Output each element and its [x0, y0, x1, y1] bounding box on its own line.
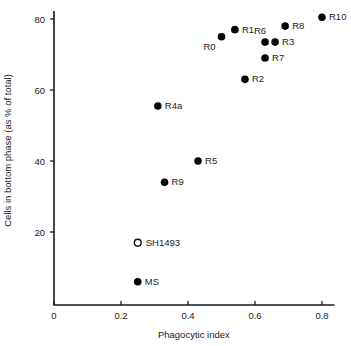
data-point-r3	[271, 38, 279, 46]
data-point-r5	[194, 157, 202, 165]
x-tick-label: 0.4	[181, 310, 194, 321]
data-point-r9	[161, 179, 169, 187]
y-axis-ticks: 20406080	[34, 14, 54, 238]
data-point-label-r6: R6	[254, 25, 266, 36]
y-tick-label: 60	[34, 85, 45, 96]
plot-canvas: 00.20.40.60.8 20406080 R0R1R6R3R7R8R10R2…	[0, 0, 351, 346]
data-point-label-r3: R3	[282, 36, 294, 47]
data-point-label-r5: R5	[205, 155, 217, 166]
data-point-r7	[261, 54, 269, 62]
data-point-label-r7: R7	[272, 52, 284, 63]
data-point-r4a	[154, 102, 162, 110]
data-point-r6	[261, 38, 269, 46]
x-tick-label: 0.8	[315, 310, 328, 321]
axes-group	[54, 12, 334, 305]
x-tick-label: 0	[51, 310, 56, 321]
data-point-label-r8: R8	[292, 20, 304, 31]
data-point-label-r10: R10	[329, 11, 346, 22]
data-point-label-r0: R0	[203, 41, 215, 52]
y-tick-label: 80	[34, 14, 45, 25]
x-axis-ticks: 00.20.40.60.8	[51, 301, 328, 321]
data-point-label-ms: MS	[145, 276, 159, 287]
data-point-label-r9: R9	[172, 176, 184, 187]
scatter-plot-figure: 00.20.40.60.8 20406080 R0R1R6R3R7R8R10R2…	[0, 0, 351, 346]
x-tick-label: 0.6	[248, 310, 261, 321]
data-point-label-r2: R2	[252, 73, 264, 84]
x-axis-title: Phagocytic index	[158, 329, 230, 340]
data-point-sh1493	[134, 239, 141, 246]
y-tick-label: 20	[34, 227, 45, 238]
data-point-label-r4a: R4a	[165, 100, 183, 111]
y-tick-label: 40	[34, 156, 45, 167]
x-tick-label: 0.2	[114, 310, 127, 321]
y-axis-title: Cells in bottom phase (as % of total)	[2, 74, 13, 227]
data-point-series: R0R1R6R3R7R8R10R2R4aR5R9SH1493MS	[134, 11, 346, 286]
axis-lines	[54, 12, 334, 305]
data-point-r10	[318, 13, 326, 21]
data-point-r1	[231, 26, 239, 34]
data-point-r2	[241, 76, 249, 84]
data-point-r0	[218, 33, 226, 41]
data-point-label-r1: R1	[242, 24, 254, 35]
data-point-label-sh1493: SH1493	[146, 237, 180, 248]
data-point-ms	[134, 278, 142, 286]
data-point-r8	[281, 22, 289, 30]
